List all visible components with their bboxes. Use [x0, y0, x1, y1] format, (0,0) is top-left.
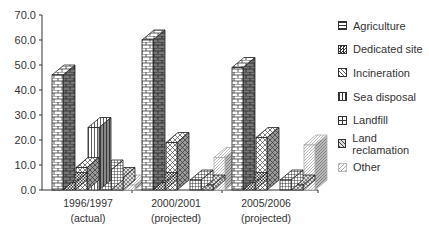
x-label-2000: 2000/2001 (projected) [131, 196, 221, 226]
legend-item-other: Other [338, 156, 429, 180]
incineration-swatch-icon [338, 68, 347, 77]
legend-item-sea-disposal: Sea disposal [338, 85, 429, 109]
svg-text:70.0: 70.0 [15, 9, 36, 21]
svg-text:50.0: 50.0 [15, 59, 36, 71]
legend-item-landfill: Landfill [338, 108, 429, 132]
svg-text:20.0: 20.0 [15, 134, 36, 146]
bars [52, 30, 327, 190]
legend-item-dedicated-site: Dedicated site [338, 38, 429, 62]
svg-text:60.0: 60.0 [15, 34, 36, 46]
agriculture-swatch-icon [338, 21, 347, 30]
svg-text:0.0: 0.0 [21, 184, 36, 196]
legend: Agriculture Dedicated site Incineration … [338, 14, 429, 179]
legend-item-agriculture: Agriculture [338, 14, 429, 38]
x-label-2005: 2005/2006 (projected) [221, 196, 311, 226]
legend-item-land-reclamation: Land reclamation [338, 132, 429, 156]
svg-text:40.0: 40.0 [15, 84, 36, 96]
land-reclamation-swatch-icon [338, 139, 346, 148]
x-label-1996: 1996/1997 (actual) [43, 196, 133, 226]
sea-disposal-swatch-icon [338, 92, 347, 101]
svg-text:10.0: 10.0 [15, 159, 36, 171]
svg-text:30.0: 30.0 [15, 109, 36, 121]
other-swatch-icon [338, 163, 347, 172]
legend-item-incineration: Incineration [338, 61, 429, 85]
dedicated-site-swatch-icon [338, 45, 347, 54]
landfill-swatch-icon [338, 116, 347, 125]
